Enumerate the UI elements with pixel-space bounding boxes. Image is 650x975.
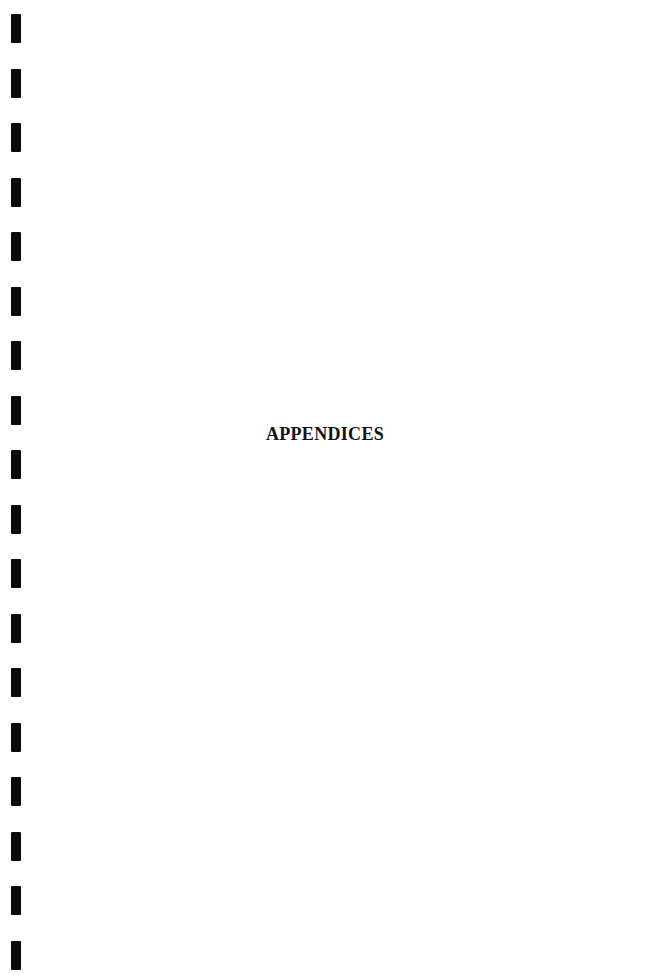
binding-hole — [11, 450, 21, 479]
document-page: APPENDICES — [0, 0, 650, 975]
binding-hole — [11, 886, 21, 915]
page-title: APPENDICES — [0, 424, 650, 445]
binding-hole — [11, 232, 21, 261]
binding-hole — [11, 178, 21, 207]
binding-hole — [11, 396, 21, 425]
binding-hole — [11, 69, 21, 98]
binding-hole — [11, 123, 21, 152]
binding-hole — [11, 668, 21, 697]
binding-hole — [11, 559, 21, 588]
spiral-binding-holes — [11, 0, 23, 975]
binding-hole — [11, 832, 21, 861]
binding-hole — [11, 14, 21, 43]
binding-hole — [11, 505, 21, 534]
binding-hole — [11, 614, 21, 643]
binding-hole — [11, 941, 21, 970]
binding-hole — [11, 723, 21, 752]
binding-hole — [11, 341, 21, 370]
binding-hole — [11, 777, 21, 806]
binding-hole — [11, 287, 21, 316]
